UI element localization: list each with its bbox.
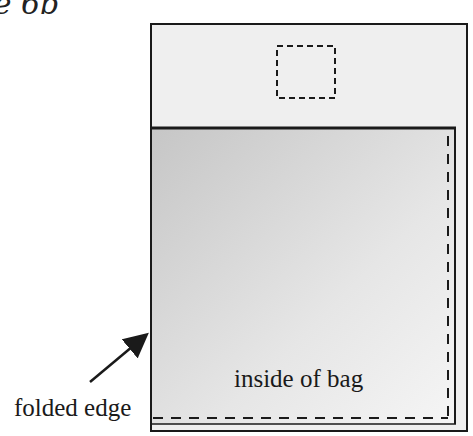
folded-edge-label: folded edge: [14, 394, 131, 422]
inside-of-bag-label: inside of bag: [234, 365, 363, 393]
arrow-icon: [90, 336, 145, 382]
